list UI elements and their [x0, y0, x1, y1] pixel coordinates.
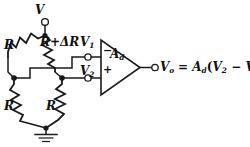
output-label-sub: o: [169, 66, 174, 75]
v1-terminal-circle: [85, 54, 91, 60]
resistor-bottom-left: [10, 78, 46, 128]
v1-label: V1: [80, 36, 95, 49]
equation-gain: A: [192, 60, 201, 74]
resistor-top-right-label-delta: ΔR: [60, 35, 79, 49]
equation-equals: =: [178, 60, 188, 74]
left-arm-connector-wire: [8, 58, 14, 78]
v1-label-sub: 1: [89, 41, 94, 50]
resistor-top-right-label-plus: +: [50, 35, 60, 49]
output-label: Vo: [160, 61, 174, 74]
equation-minus: −: [231, 60, 241, 74]
resistor-bottom-left-label: R: [4, 100, 14, 112]
resistor-bottom-right-label: R: [46, 100, 56, 112]
source-terminal-circle: [42, 19, 49, 26]
resistor-top-left-label: R: [4, 39, 14, 51]
noninverting-input-sign: +: [103, 64, 112, 75]
equation-term2: V: [245, 60, 250, 74]
output-equation: = Ad(V2 − V1): [178, 61, 250, 74]
resistor-top-right-label: R+ΔR: [40, 36, 79, 48]
v2-label: V2: [80, 65, 95, 78]
resistor-top-right-label-r: R: [40, 35, 50, 49]
equation-term1: V: [212, 60, 221, 74]
output-label-base: V: [160, 60, 169, 74]
v1-label-base: V: [80, 35, 89, 49]
v1-signal-wire: [14, 57, 85, 78]
source-label: V: [35, 4, 44, 16]
v2-label-base: V: [80, 64, 89, 78]
output-terminal-circle: [152, 64, 158, 70]
amplifier-gain-sub: d: [119, 53, 124, 62]
v2-label-sub: 2: [89, 70, 94, 79]
inverting-input-sign: −: [103, 45, 112, 56]
circuit-diagram-figure: V R R+ΔR R R V1 V2 Ad − + Vo = Ad(V2 − V…: [0, 0, 250, 147]
